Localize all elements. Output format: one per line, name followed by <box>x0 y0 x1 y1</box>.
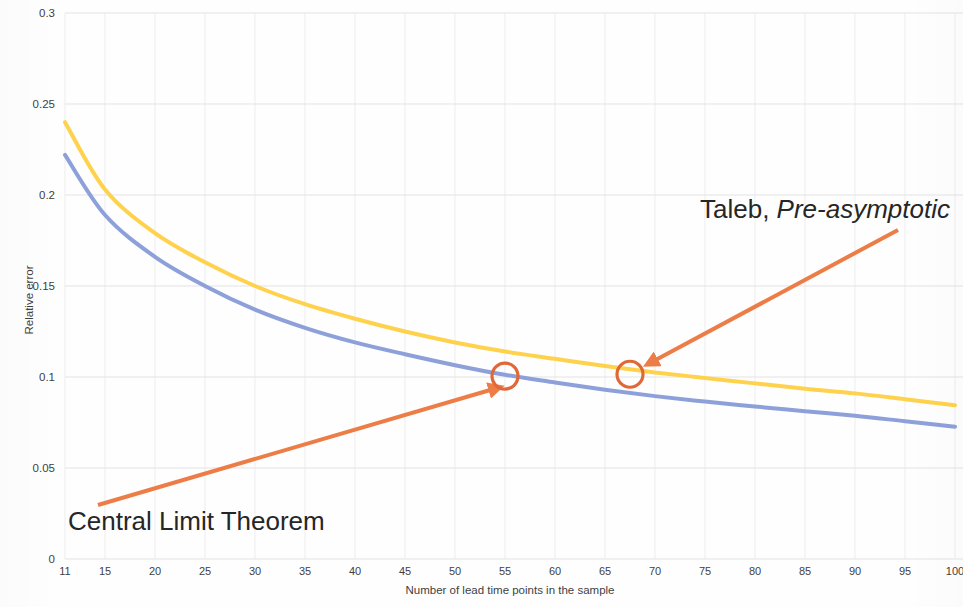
x-tick-label: 40 <box>349 565 361 577</box>
x-tick-label: 80 <box>749 565 761 577</box>
y-tick-label: 0.25 <box>33 98 55 110</box>
y-tick-label: 0.15 <box>33 280 55 292</box>
x-tick-label: 45 <box>399 565 411 577</box>
x-tick-label: 20 <box>149 565 161 577</box>
chart-canvas: 00.050.10.150.20.250.3 11152025303540455… <box>0 0 963 607</box>
annotation-label-taleb-pre-asymptotic: Taleb, Pre-asymptotic <box>700 194 950 224</box>
x-tick-label: 100 <box>946 565 963 577</box>
y-tick-label: 0.1 <box>39 371 55 383</box>
annotation-label-central-limit-theorem: Central Limit Theorem <box>68 506 325 536</box>
x-tick-label: 15 <box>99 565 111 577</box>
y-tick-label: 0.3 <box>39 7 55 19</box>
y-tick-label: 0 <box>49 553 55 565</box>
x-tick-label: 55 <box>499 565 511 577</box>
x-tick-label: 95 <box>899 565 911 577</box>
x-tick-label: 70 <box>649 565 661 577</box>
y-tick-label: 0.2 <box>39 189 55 201</box>
x-tick-label: 60 <box>549 565 561 577</box>
x-axis-title: Number of lead time points in the sample <box>405 584 614 596</box>
y-axis-title: Relative error <box>23 265 35 334</box>
x-tick-label: 85 <box>799 565 811 577</box>
x-tick-label: 25 <box>199 565 211 577</box>
x-tick-label: 35 <box>299 565 311 577</box>
x-tick-label: 65 <box>599 565 611 577</box>
x-tick-label: 50 <box>449 565 461 577</box>
x-tick-label: 90 <box>849 565 861 577</box>
annotation-label-italic: Pre-asymptotic <box>777 194 950 224</box>
annotation-label-prefix: Taleb, <box>700 194 777 224</box>
y-tick-label: 0.05 <box>33 462 55 474</box>
x-tick-label: 75 <box>699 565 711 577</box>
relative-error-line-chart: 00.050.10.150.20.250.3 11152025303540455… <box>0 0 963 607</box>
x-tick-label: 11 <box>59 565 70 577</box>
x-tick-label: 30 <box>249 565 261 577</box>
